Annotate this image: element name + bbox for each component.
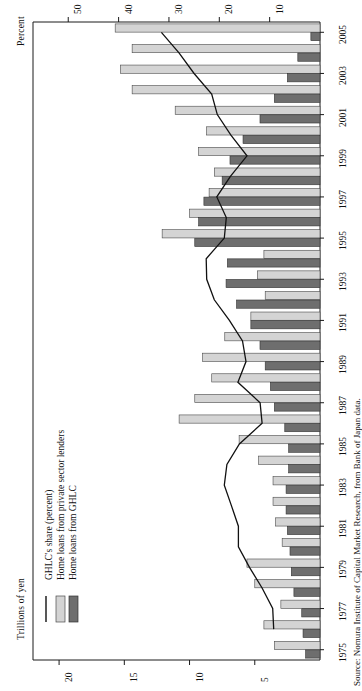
bar-ghlc-1983 [286,485,320,493]
trillions-tick-label-20: 20 [64,673,74,683]
bar-ghlc-2003 [287,74,320,82]
bar-ghlc-1982 [286,506,320,514]
bar-private-1986 [179,415,320,423]
bar-private-1982 [273,497,320,505]
bar-private-1988 [212,374,320,382]
year-label-2005: 2005 [338,25,348,44]
bar-private-2005 [115,24,320,32]
bar-private-1992 [265,291,320,299]
bar-ghlc-1992 [237,300,320,308]
bar-private-1987 [195,394,320,402]
bar-private-2001 [175,106,320,114]
bar-private-1978 [255,580,320,588]
bar-private-1975 [274,641,320,649]
bar-private-1985 [239,436,320,444]
bar-ghlc-1979 [291,568,320,576]
bar-ghlc-1987 [274,403,320,411]
trillions-tick-label-5: 5 [260,677,270,682]
year-label-1995: 1995 [338,231,348,250]
percent-tick-label-20: 20 [224,5,234,15]
year-label-1985: 1985 [338,437,348,456]
bar-private-2002 [132,86,320,94]
bar-ghlc-1994 [227,259,320,267]
bar-ghlc-2005 [311,32,320,40]
year-label-1999: 1999 [338,149,348,168]
trillions-tick-label-15: 15 [129,673,139,683]
bar-private-1991 [251,312,320,320]
bar-ghlc-1977 [302,609,320,617]
bar-private-1995 [162,230,320,238]
year-label-1997: 1997 [338,190,348,209]
bar-ghlc-1998 [222,177,320,185]
percent-tick-label-50: 50 [73,5,83,15]
legend-label-private: Home loans from private sector lenders [56,430,66,580]
bar-private-1997 [209,189,320,197]
bar-ghlc-1989 [265,362,320,370]
bar-ghlc-2004 [298,53,320,61]
ghlc-share-line [161,32,273,629]
bar-ghlc-1975 [306,650,320,658]
bar-private-1981 [276,518,320,526]
bar-ghlc-1976 [303,629,320,637]
bar-ghlc-1997 [204,197,320,205]
year-label-1993: 1993 [338,272,348,291]
bar-ghlc-1995 [195,238,320,246]
bar-private-1999 [199,147,320,155]
bar-private-1993 [257,271,320,279]
bar-ghlc-1981 [287,526,320,534]
bar-private-2004 [132,44,320,52]
percent-tick-label-30: 30 [174,5,184,15]
bar-private-1976 [264,621,320,629]
trillions-tick-label-10: 10 [195,673,205,683]
source-note: Source: Nomura Institute of Capital Mark… [352,398,362,686]
bar-ghlc-1984 [289,465,320,473]
bar-private-2003 [120,65,320,73]
bar-private-1996 [190,209,320,217]
bar-ghlc-1980 [290,547,320,555]
bar-ghlc-2001 [260,115,320,123]
bar-ghlc-1993 [226,279,320,287]
year-label-1989: 1989 [338,355,348,374]
year-label-1975: 1975 [338,643,348,662]
percent-tick-label-40: 40 [124,5,134,15]
bar-ghlc-1985 [289,444,320,452]
bar-private-1977 [281,600,320,608]
bar-ghlc-1986 [285,423,320,431]
bar-private-1989 [203,353,320,361]
bar-ghlc-1988 [270,382,320,390]
trillions-axis-title: Trillions of yen [16,578,26,640]
year-label-1981: 1981 [338,519,348,538]
legend-swatch-private [56,596,65,622]
bar-private-1998 [214,168,320,176]
bar-ghlc-2000 [243,135,320,143]
bar-private-1979 [247,559,320,567]
legend-label-share: GHLC's share (percent) [44,490,54,580]
year-label-2003: 2003 [338,66,348,85]
year-label-1991: 1991 [338,313,348,332]
bar-ghlc-2002 [274,94,320,102]
year-label-2001: 2001 [338,108,348,127]
bar-ghlc-1996 [199,218,320,226]
bar-private-2000 [207,127,320,135]
year-label-1977: 1977 [338,602,348,621]
bar-ghlc-1978 [294,588,320,596]
year-label-1983: 1983 [338,478,348,497]
bar-private-1994 [264,250,320,258]
bar-private-1984 [259,456,320,464]
bar-ghlc-1990 [260,341,320,349]
year-label-1979: 1979 [338,560,348,579]
percent-tick-label-10: 10 [275,5,285,15]
bar-private-1980 [282,538,320,546]
bar-ghlc-1991 [251,321,320,329]
year-label-1987: 1987 [338,396,348,415]
percent-axis-title: Percent [16,16,26,46]
legend-label-ghlc: Home loans from GHLC [68,485,78,580]
bar-private-1983 [273,477,320,485]
legend-swatch-ghlc [69,596,78,622]
